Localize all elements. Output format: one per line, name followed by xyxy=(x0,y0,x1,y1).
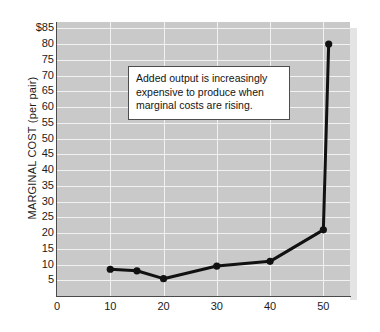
data-point xyxy=(266,258,273,265)
x-axis-line xyxy=(57,296,351,297)
data-point xyxy=(160,275,167,282)
y-tick-label: 40 xyxy=(2,164,54,175)
x-tick-label: 10 xyxy=(90,300,130,312)
y-axis-line xyxy=(56,22,57,297)
x-tick-label: 0 xyxy=(37,300,77,312)
data-point xyxy=(320,226,327,233)
data-point xyxy=(213,262,220,269)
data-point xyxy=(133,267,140,274)
y-tick-label: 45 xyxy=(2,148,54,159)
annotation-line-1: Added output is increasingly xyxy=(136,72,282,86)
y-tick-label: 55 xyxy=(2,117,54,128)
y-tick-label: 20 xyxy=(2,227,54,238)
chart-figure: MARGINAL COST (per pair) $85807570656055… xyxy=(0,0,380,332)
data-point xyxy=(107,266,114,273)
x-tick-label: 50 xyxy=(303,300,343,312)
data-point xyxy=(325,40,332,47)
y-tick-label: 10 xyxy=(2,259,54,270)
y-tick-label: 60 xyxy=(2,101,54,112)
annotation-line-2: expensive to produce when xyxy=(136,86,282,100)
plot-shadow xyxy=(350,28,357,300)
y-tick-label: 5 xyxy=(2,274,54,285)
y-tick-label: 25 xyxy=(2,211,54,222)
annotation-textbox: Added output is increasingly expensive t… xyxy=(128,66,290,120)
y-tick-label: 70 xyxy=(2,70,54,81)
y-axis-tick-labels: $858075706560555045403530252015105 xyxy=(0,0,54,332)
y-tick-label: $85 xyxy=(2,22,54,33)
plot-area: Added output is increasingly expensive t… xyxy=(57,22,350,296)
y-tick-label: 75 xyxy=(2,54,54,65)
y-tick-label: 30 xyxy=(2,196,54,207)
y-tick-label: 35 xyxy=(2,180,54,191)
x-tick-label: 40 xyxy=(250,300,290,312)
x-tick-label: 30 xyxy=(197,300,237,312)
series-marginal-cost xyxy=(57,22,350,296)
y-tick-label: 65 xyxy=(2,85,54,96)
y-tick-label: 15 xyxy=(2,243,54,254)
y-tick-label: 80 xyxy=(2,38,54,49)
x-tick-label: 20 xyxy=(144,300,184,312)
y-tick-label: 50 xyxy=(2,133,54,144)
annotation-line-3: marginal costs are rising. xyxy=(136,99,282,113)
